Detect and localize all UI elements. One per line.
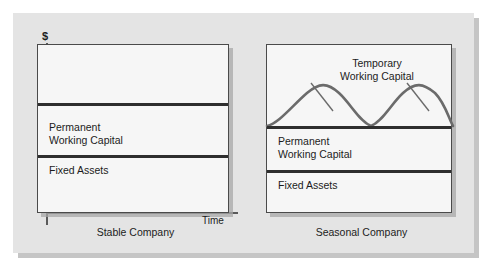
divider-fixed-assets-top-seasonal	[267, 170, 451, 173]
plot-area-seasonal: Temporary Working Capital Permanent Work…	[266, 44, 452, 213]
x-axis-label-stable: Time	[202, 215, 224, 226]
chart-seasonal-company: $ Temporary Working Capital Permanent Wo…	[249, 13, 474, 253]
band-label-line1: Temporary	[317, 57, 437, 70]
chart-stable-company: $ Permanent Working Capital Fixed Assets…	[23, 13, 248, 253]
band-label-fixed-assets-stable: Fixed Assets	[49, 164, 109, 177]
y-axis-label-stable: $	[42, 30, 48, 42]
divider-fixed-assets-top-stable	[38, 155, 228, 158]
band-label-permanent-working-capital-stable: Permanent Working Capital	[49, 121, 123, 147]
band-label-line1: Permanent	[278, 135, 352, 148]
band-label-line1: Permanent	[49, 121, 123, 134]
band-label-line2: Working Capital	[278, 148, 352, 161]
divider-permanent-wc-top-seasonal	[267, 126, 451, 129]
divider-permanent-wc-top-stable	[38, 103, 228, 106]
caption-seasonal-company: Seasonal Company	[249, 226, 474, 238]
band-label-fixed-assets-seasonal: Fixed Assets	[278, 179, 338, 192]
caption-stable-company: Stable Company	[23, 226, 248, 238]
band-label-permanent-working-capital-seasonal: Permanent Working Capital	[278, 135, 352, 161]
plot-area-stable: Permanent Working Capital Fixed Assets	[37, 44, 229, 213]
figure-panel: $ Permanent Working Capital Fixed Assets…	[13, 13, 474, 253]
band-label-line2: Working Capital	[317, 70, 437, 83]
band-label-line2: Working Capital	[49, 134, 123, 147]
band-label-temporary-working-capital-seasonal: Temporary Working Capital	[317, 57, 437, 83]
